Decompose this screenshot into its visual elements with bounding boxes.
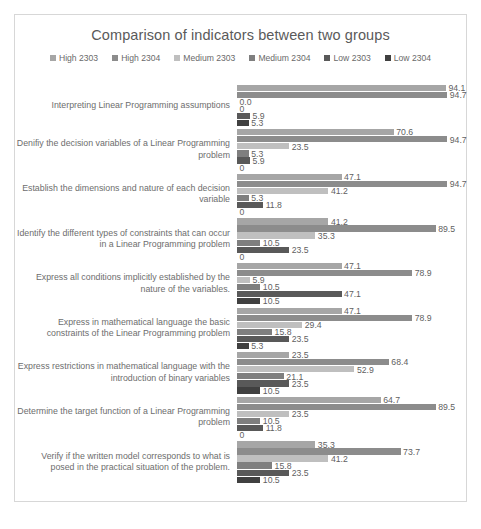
legend-item[interactable]: Low 2304 (385, 53, 431, 63)
bar-group: Verify if the written model corresponds … (15, 440, 466, 485)
legend-item[interactable]: Medium 2304 (249, 53, 310, 63)
bar-row: 10.5 (237, 298, 466, 305)
bar-row: 11.8 (237, 202, 467, 209)
bar-row: 0 (237, 432, 466, 439)
bar[interactable] (237, 397, 381, 403)
bar[interactable] (237, 315, 412, 321)
bar-row: 41.2 (237, 218, 466, 225)
legend-swatch-icon (112, 55, 118, 61)
bar[interactable] (237, 284, 260, 290)
bar[interactable] (237, 373, 284, 379)
category-label: Express in mathematical language the bas… (15, 317, 237, 340)
bar-value-label: 5.3 (251, 342, 263, 351)
bar-row: 64.7 (237, 397, 466, 404)
bar[interactable] (237, 113, 250, 119)
category-label: Denifiy the decision variables of a Line… (15, 138, 237, 161)
bar-stack: 64.789.523.510.511.80 (237, 395, 466, 440)
bar[interactable] (237, 387, 260, 393)
bar-row: 15.8 (237, 462, 466, 469)
legend-item-label: Medium 2304 (258, 53, 310, 63)
bar[interactable] (237, 92, 447, 98)
bar[interactable] (237, 85, 446, 91)
bar-row: 35.3 (237, 441, 466, 448)
bar[interactable] (237, 352, 289, 358)
bar-stack: 47.194.741.25.311.80 (237, 172, 467, 217)
bar-row: 47.1 (237, 174, 467, 181)
bar-row: 73.7 (237, 448, 466, 455)
bar[interactable] (237, 174, 342, 180)
bar-stack: 70.694.723.55.35.90 (237, 128, 467, 173)
bar[interactable] (237, 308, 342, 314)
bar-value-label: 10.5 (263, 387, 280, 396)
bar-group: Express restrictions in mathematical lan… (15, 351, 466, 396)
bar[interactable] (237, 322, 302, 328)
bar-row: 94.7 (237, 136, 467, 143)
bar-row: 0 (237, 253, 466, 260)
bar-row: 29.4 (237, 321, 466, 328)
bar-stack: 35.373.741.215.823.510.5 (237, 440, 466, 485)
bar-row: 5.9 (237, 157, 467, 164)
bar-row: 21.1 (237, 373, 466, 380)
bar[interactable] (237, 129, 394, 135)
bar[interactable] (237, 448, 401, 454)
bar-row: 70.6 (237, 129, 467, 136)
plot-area: Interpreting Linear Programming assumpti… (15, 83, 466, 497)
legend-item[interactable]: Medium 2303 (174, 53, 235, 63)
bar-value-label: 0 (240, 164, 245, 173)
bar[interactable] (237, 343, 249, 349)
category-label: Interpreting Linear Programming assumpti… (15, 100, 237, 111)
bar[interactable] (237, 329, 272, 335)
bar[interactable] (237, 150, 249, 156)
bar-stack: 47.178.929.415.823.55.3 (237, 306, 466, 351)
bar[interactable] (237, 291, 342, 297)
bar-group: Determine the target function of a Linea… (15, 395, 466, 440)
bar-row: 11.8 (237, 425, 466, 432)
bar-value-label: 0 (240, 431, 245, 440)
legend-swatch-icon (249, 55, 255, 61)
bar[interactable] (237, 240, 260, 246)
legend-swatch-icon (324, 55, 330, 61)
bar-row: 94.7 (237, 181, 467, 188)
bar[interactable] (237, 336, 289, 342)
bar-group: Denifiy the decision variables of a Line… (15, 128, 466, 173)
bar[interactable] (237, 143, 289, 149)
chart-container: Comparison of indicators between two gro… (14, 14, 467, 502)
bar-group: Identify the different types of constrai… (15, 217, 466, 262)
bar-row: 89.5 (237, 404, 466, 411)
bar[interactable] (237, 277, 250, 283)
bar[interactable] (237, 195, 249, 201)
bar-value-label: 5.3 (251, 119, 263, 128)
legend-item-label: Low 2303 (333, 53, 370, 63)
legend-item[interactable]: High 2304 (112, 53, 160, 63)
legend-swatch-icon (50, 55, 56, 61)
bar-stack: 47.178.95.910.547.110.5 (237, 261, 466, 306)
bar-stack: 41.289.535.310.523.50 (237, 217, 466, 262)
bar[interactable] (237, 477, 260, 483)
bar-row: 41.2 (237, 455, 466, 462)
bar-row: 0.0 (237, 98, 467, 105)
legend-item[interactable]: Low 2303 (324, 53, 370, 63)
bar-row: 5.3 (237, 343, 466, 350)
bar[interactable] (237, 225, 436, 231)
bar[interactable] (237, 404, 436, 410)
legend-item[interactable]: High 2303 (50, 53, 98, 63)
bar-row: 10.5 (237, 387, 466, 394)
bar-stack: 23.568.452.921.123.510.5 (237, 351, 466, 396)
bar-row: 0 (237, 106, 467, 113)
bar[interactable] (237, 441, 315, 447)
bar-row: 94.1 (237, 84, 467, 91)
bar[interactable] (237, 136, 447, 142)
bar[interactable] (237, 120, 249, 126)
bar-row: 68.4 (237, 359, 466, 366)
bar-row: 78.9 (237, 314, 466, 321)
chart-title: Comparison of indicators between two gro… (15, 27, 466, 43)
bar-row: 78.9 (237, 270, 466, 277)
bar[interactable] (237, 298, 260, 304)
bar[interactable] (237, 263, 342, 269)
bar-group: Establish the dimensions and nature of e… (15, 172, 466, 217)
bar[interactable] (237, 418, 260, 424)
bar[interactable] (237, 462, 272, 468)
bar[interactable] (237, 218, 328, 224)
bar[interactable] (237, 247, 289, 253)
bar-value-label: 10.5 (263, 297, 280, 306)
